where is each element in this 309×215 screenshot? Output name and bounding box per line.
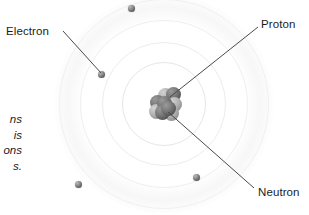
label-proton: Proton [261,18,295,30]
atom-diagram: Electron Proton Neutron ns is ons s. [0,0,309,215]
caption-line-3: ons [0,143,22,159]
label-electron: Electron [6,25,49,37]
nucleus [148,86,184,122]
caption-line-2: is [0,128,22,144]
electron-upper-left [98,71,105,78]
leader-neutron-line [168,112,254,188]
proton-particle [161,101,176,116]
electron-top [128,5,135,12]
leader-electron-line [63,31,101,73]
electron-bottom-left [75,181,82,188]
caption-line-4: s. [0,159,22,175]
caption-text: ns is ons s. [0,112,22,174]
electron-bottom-right [193,174,200,181]
label-neutron: Neutron [258,186,300,198]
caption-line-1: ns [0,112,22,128]
